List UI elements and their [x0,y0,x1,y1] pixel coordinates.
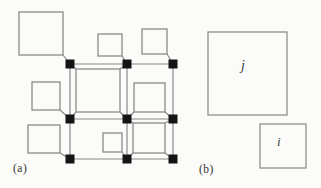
lattice-node [66,155,75,164]
panel-b-label: (b) [199,163,214,175]
panel-a-label: (a) [13,162,27,174]
lattice-node [123,60,132,69]
square-j [208,32,287,115]
square-i-label: i [277,134,281,150]
attached-square [133,123,165,153]
square-j-label: j [241,58,245,74]
attached-square [19,12,63,55]
attached-square [28,125,60,153]
lattice-node [66,115,75,124]
square-i [260,124,306,168]
lattice-node [169,60,178,69]
lattice-node [66,60,75,69]
attached-square [103,133,122,152]
lattice-node [123,115,132,124]
lattice-node [169,115,178,124]
attached-square [134,83,165,112]
attached-square [32,82,60,110]
attached-square [76,69,120,112]
lattice-node [169,155,178,164]
lattice-node [123,155,132,164]
attached-square [142,29,167,54]
figure: (a) (b) j i [0,0,321,188]
diagram-canvas [0,0,321,188]
attached-square [98,34,122,56]
